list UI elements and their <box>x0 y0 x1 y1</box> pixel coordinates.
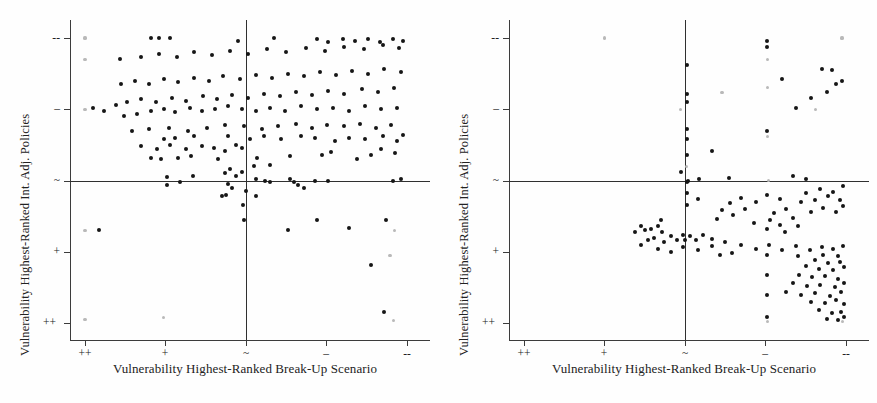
data-point <box>358 122 362 126</box>
data-point <box>230 93 234 97</box>
data-point <box>839 290 843 294</box>
data-point <box>392 86 396 90</box>
data-point <box>207 79 211 83</box>
data-point <box>149 36 153 40</box>
data-point <box>766 320 769 323</box>
data-point <box>825 90 829 94</box>
data-point <box>796 254 800 258</box>
data-point <box>191 174 195 178</box>
data-point <box>723 240 727 244</box>
data-point <box>820 67 824 71</box>
data-point <box>213 107 217 111</box>
data-point <box>765 293 769 297</box>
data-point <box>139 144 143 148</box>
data-point <box>168 36 172 40</box>
right-ytick-label-4: ++ <box>469 317 495 327</box>
data-point <box>212 146 216 150</box>
data-point <box>639 243 643 247</box>
data-point <box>149 156 153 160</box>
data-point <box>395 106 399 110</box>
right-plot-area <box>439 0 877 403</box>
right-x-axis-title: Vulnerability Highest-Ranked Break-Up Sc… <box>499 361 869 377</box>
data-point <box>323 49 327 53</box>
data-point <box>743 207 747 211</box>
data-point <box>147 127 151 131</box>
data-point <box>366 37 370 41</box>
data-point <box>189 154 193 158</box>
data-point <box>119 82 123 86</box>
right-ytick-label-2: ~ <box>473 175 499 185</box>
data-point <box>315 107 319 111</box>
data-point <box>362 47 366 51</box>
data-point <box>165 175 169 179</box>
data-point <box>841 320 844 323</box>
data-point <box>326 40 330 44</box>
data-point <box>162 316 165 319</box>
data-point <box>254 73 258 77</box>
data-point <box>299 104 303 108</box>
data-point <box>83 58 86 61</box>
data-point <box>839 310 843 314</box>
data-point <box>817 267 821 271</box>
data-point <box>333 139 337 143</box>
right-ytick-mark-4 <box>503 323 509 324</box>
data-point <box>633 230 637 234</box>
right-scatter-panel: Vulnerability Highest-Ranked Int. Adj. P… <box>439 0 877 403</box>
data-point <box>279 137 283 141</box>
data-point <box>656 224 660 228</box>
data-point <box>241 203 245 207</box>
data-point <box>823 301 827 305</box>
data-point <box>393 151 397 155</box>
data-point <box>767 243 771 247</box>
data-point <box>262 134 266 138</box>
data-point <box>341 37 345 41</box>
data-point <box>286 228 290 232</box>
data-point <box>304 46 308 50</box>
data-point <box>401 39 405 43</box>
left-ytick-mark-4 <box>64 323 70 324</box>
data-point <box>842 281 846 285</box>
right-ytick-label-3: + <box>473 246 499 256</box>
data-point <box>831 268 835 272</box>
data-point <box>154 100 158 104</box>
data-point <box>399 70 403 74</box>
data-point <box>659 218 663 222</box>
data-point <box>731 213 735 217</box>
data-point <box>369 263 373 267</box>
data-point <box>688 234 692 238</box>
data-point <box>765 45 769 49</box>
data-point <box>813 291 817 295</box>
data-point <box>363 104 367 108</box>
data-point <box>818 283 822 287</box>
right-xtick-mark-2 <box>685 340 686 346</box>
data-point <box>766 135 769 138</box>
right-xtick-label-4: -- <box>831 348 861 358</box>
data-point <box>826 194 830 198</box>
data-point <box>820 245 824 249</box>
data-point <box>765 227 769 231</box>
data-point <box>342 45 346 49</box>
data-point <box>669 234 673 238</box>
right-ytick-mark-0 <box>503 38 509 39</box>
data-point <box>170 96 174 100</box>
data-point <box>374 126 378 130</box>
data-point <box>808 248 812 252</box>
data-point <box>366 72 370 76</box>
data-point <box>382 310 386 314</box>
data-point <box>841 204 845 208</box>
data-point <box>381 43 385 47</box>
data-point <box>823 274 827 278</box>
data-point <box>780 248 784 252</box>
data-point <box>173 110 177 114</box>
left-ytick-label-2: ~ <box>34 175 60 185</box>
right-xtick-label-0: ++ <box>509 348 539 358</box>
data-point <box>778 223 782 227</box>
left-xtick-mark-0 <box>85 340 86 346</box>
data-point <box>799 293 803 297</box>
data-point <box>831 190 835 194</box>
right-ytick-label-0: -- <box>473 32 499 42</box>
data-point <box>814 108 817 111</box>
data-point <box>780 77 784 81</box>
data-point <box>260 127 264 131</box>
data-point <box>226 104 230 108</box>
